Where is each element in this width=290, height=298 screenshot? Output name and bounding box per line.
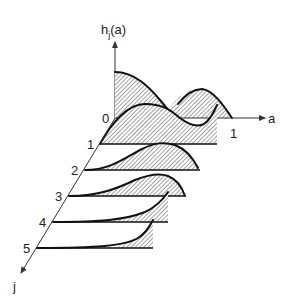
row-label-1: 1 <box>87 137 94 152</box>
vertical-axis-label: hj(a) <box>101 22 126 40</box>
row-label-4: 4 <box>39 215 46 230</box>
row-2-curve <box>85 143 200 170</box>
row-label-3: 3 <box>55 189 62 204</box>
row-label-2: 2 <box>71 163 78 178</box>
a-end-label: 1 <box>230 126 237 141</box>
origin-label: 0 <box>102 111 109 126</box>
row-label-5: 5 <box>23 241 30 256</box>
density-stack-diagram: hj(a) a 0 1 <box>0 0 290 298</box>
row-5-curve <box>37 220 153 248</box>
horizontal-axis-label: a <box>268 111 276 126</box>
depth-axis-label: j <box>12 279 16 294</box>
